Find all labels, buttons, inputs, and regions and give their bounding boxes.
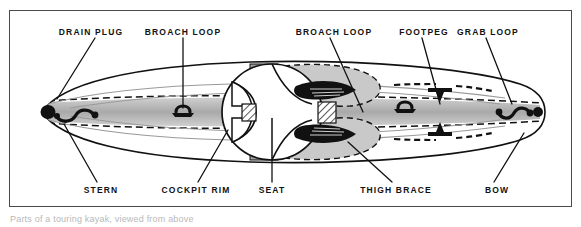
label-seat: SEAT [259,185,286,195]
label-footpeg: FOOTPEG [399,27,449,37]
label-thigh-brace: THIGH BRACE [360,185,432,195]
label-bow: BOW [485,185,509,195]
label-broach-loop-bow: BROACH LOOP [296,27,372,37]
figure-canvas: DRAIN PLUG BROACH LOOP BROACH LOOP FOOTP… [0,0,581,227]
figure-caption-clipped: Parts of a touring kayak, viewed from ab… [10,214,310,225]
label-stern: STERN [84,185,119,195]
label-drain-plug: DRAIN PLUG [59,27,123,37]
label-grab-loop: GRAB LOOP [457,27,519,37]
label-cockpit-rim: COCKPIT RIM [162,185,231,195]
label-broach-loop-stern: BROACH LOOP [145,27,221,37]
